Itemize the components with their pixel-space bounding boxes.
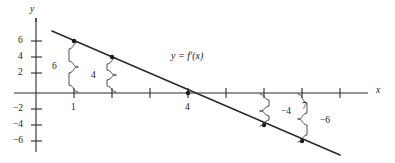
y-tick-label-neg6: −6: [13, 136, 23, 146]
brace-label-6: 6: [52, 62, 57, 72]
y-tick-label-neg4: −4: [13, 120, 23, 130]
y-tick-label-2: 2: [18, 68, 23, 78]
y-tick-label-4: 4: [18, 52, 23, 62]
figure-canvas: y x 6 4 2 −2 −4 −6 1 4 y = f′(x) 6 4 −4 …: [0, 0, 395, 163]
curve-label: y = f′(x): [171, 51, 203, 61]
x-tick-label-4: 4: [185, 103, 190, 113]
x-axis-label: x: [376, 86, 380, 96]
brace-x2-span4: [107, 58, 116, 92]
brace-x1-span6: [69, 42, 78, 92]
data-point-4-0: [186, 91, 190, 95]
brace-label-7: 7: [302, 102, 307, 112]
coordinate-plot: [0, 0, 395, 163]
y-tick-label-neg2: −2: [13, 104, 23, 114]
brace-label-neg4: −4: [281, 107, 291, 117]
y-tick-label-6: 6: [18, 36, 23, 46]
x-tick-label-1: 1: [71, 103, 76, 113]
brace-label-4: 4: [91, 71, 96, 81]
y-axis-label: y: [30, 5, 34, 15]
brace-label-neg6: −6: [320, 116, 330, 126]
